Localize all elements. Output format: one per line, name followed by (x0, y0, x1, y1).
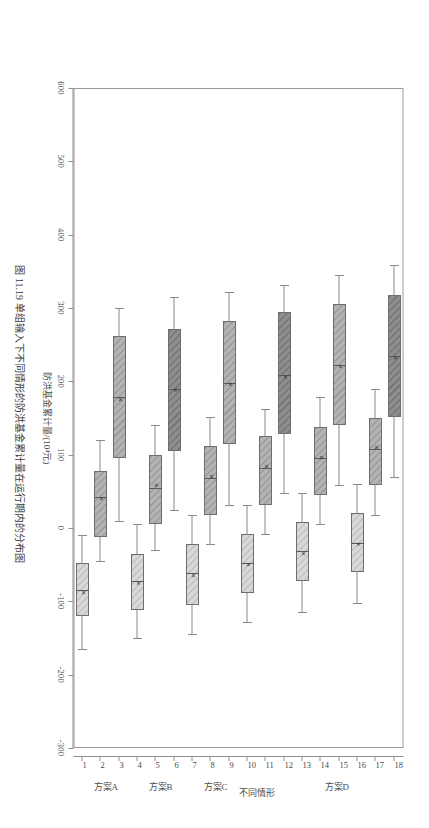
whisker-cap-high (389, 477, 398, 478)
boxplot-item: × (241, 0, 254, 828)
value-tick (68, 235, 73, 236)
value-tick (68, 675, 73, 676)
whisker-cap-high (206, 544, 215, 545)
whisker-cap-high (114, 521, 123, 522)
mean-marker: × (317, 455, 325, 460)
whisker-cap-high (334, 485, 343, 486)
value-tick-label: -200 (55, 666, 65, 682)
value-axis (72, 88, 73, 748)
whisker-cap-low (353, 484, 362, 485)
whisker-low (228, 292, 229, 321)
value-tick (68, 601, 73, 602)
figure-page: 6005004003002001000-100-200-300 防洪基金累计量/… (0, 0, 429, 828)
whisker-high (338, 425, 339, 485)
boxplot-item: × (131, 0, 144, 828)
whisker-low (191, 515, 192, 544)
value-tick (68, 528, 73, 529)
whisker-cap-high (279, 493, 288, 494)
whisker-low (375, 389, 376, 418)
mean-marker: × (97, 496, 105, 501)
whisker-cap-low (114, 308, 123, 309)
whisker-low (210, 417, 211, 446)
whisker-cap-low (371, 389, 380, 390)
boxplot-item: × (332, 0, 345, 828)
whisker-cap-low (78, 535, 87, 536)
whisker-low (246, 505, 247, 534)
whisker-high (228, 444, 229, 505)
mean-marker: × (78, 590, 86, 595)
whisker-low (393, 265, 394, 294)
whisker-low (136, 524, 137, 553)
whisker-cap-low (224, 292, 233, 293)
value-tick (68, 308, 73, 309)
whisker-cap-high (188, 634, 197, 635)
mean-marker: × (152, 483, 160, 488)
whisker-high (191, 605, 192, 634)
whisker-high (375, 485, 376, 514)
mean-marker: × (243, 562, 251, 567)
mean-marker: × (188, 573, 196, 578)
whisker-cap-low (206, 417, 215, 418)
whisker-high (320, 495, 321, 524)
mean-marker: × (133, 581, 141, 586)
value-axis-title: 防洪基金累计量/(10⁴元) (40, 88, 53, 748)
whisker-cap-low (334, 275, 343, 276)
mean-marker: × (390, 356, 398, 361)
value-tick-label: 100 (55, 448, 65, 461)
whisker-high (100, 537, 101, 561)
whisker-low (301, 493, 302, 522)
whisker-low (155, 425, 156, 454)
boxplot-item: × (222, 0, 235, 828)
boxplot-item: × (277, 0, 290, 828)
boxplot-item: × (167, 0, 180, 828)
whisker-cap-high (78, 649, 87, 650)
whisker-cap-high (96, 561, 105, 562)
whisker-high (136, 610, 137, 638)
whisker-high (81, 616, 82, 649)
mean-marker: × (170, 388, 178, 393)
value-tick-label: 600 (55, 81, 65, 94)
boxplot-item: × (369, 0, 382, 828)
whisker-high (393, 417, 394, 477)
whisker-cap-high (316, 524, 325, 525)
whisker-high (210, 515, 211, 544)
box-iqr (149, 455, 162, 525)
whisker-cap-low (279, 285, 288, 286)
whisker-high (283, 434, 284, 493)
whisker-cap-high (133, 638, 142, 639)
whisker-cap-low (151, 425, 160, 426)
boxplot-item: × (112, 0, 125, 828)
rotated-figure-canvas: 6005004003002001000-100-200-300 防洪基金累计量/… (0, 0, 429, 828)
figure-caption: 图 11.19 单组输入下不同情形的防洪基金累计量在运行期内的分布图 (12, 0, 27, 828)
mean-marker: × (335, 364, 343, 369)
boxplot-item: × (259, 0, 272, 828)
whisker-high (265, 505, 266, 534)
whisker-cap-high (224, 505, 233, 506)
whisker-cap-high (151, 550, 160, 551)
whisker-low (118, 308, 119, 336)
whisker-cap-low (298, 493, 307, 494)
value-tick-label: 0 (55, 526, 65, 530)
value-tick-label: -300 (55, 740, 65, 756)
value-tick (68, 88, 73, 89)
mean-marker: × (280, 375, 288, 380)
whisker-cap-low (316, 397, 325, 398)
whisker-low (320, 397, 321, 426)
boxplot-figure: 6005004003002001000-100-200-300 防洪基金累计量/… (0, 0, 429, 828)
boxplot-item: × (204, 0, 217, 828)
value-tick-label: 200 (55, 375, 65, 388)
value-tick-label: -100 (55, 593, 65, 609)
value-tick-label: 300 (55, 301, 65, 314)
box-iqr (314, 427, 327, 495)
whisker-cap-low (261, 409, 270, 410)
whisker-low (81, 535, 82, 563)
value-tick (68, 161, 73, 162)
value-tick-label: 500 (55, 155, 65, 168)
whisker-cap-high (243, 622, 252, 623)
boxplot-item: × (314, 0, 327, 828)
value-tick (68, 455, 73, 456)
whisker-high (246, 593, 247, 622)
whisker-low (100, 440, 101, 471)
box-iqr (259, 436, 272, 504)
whisker-low (356, 484, 357, 513)
